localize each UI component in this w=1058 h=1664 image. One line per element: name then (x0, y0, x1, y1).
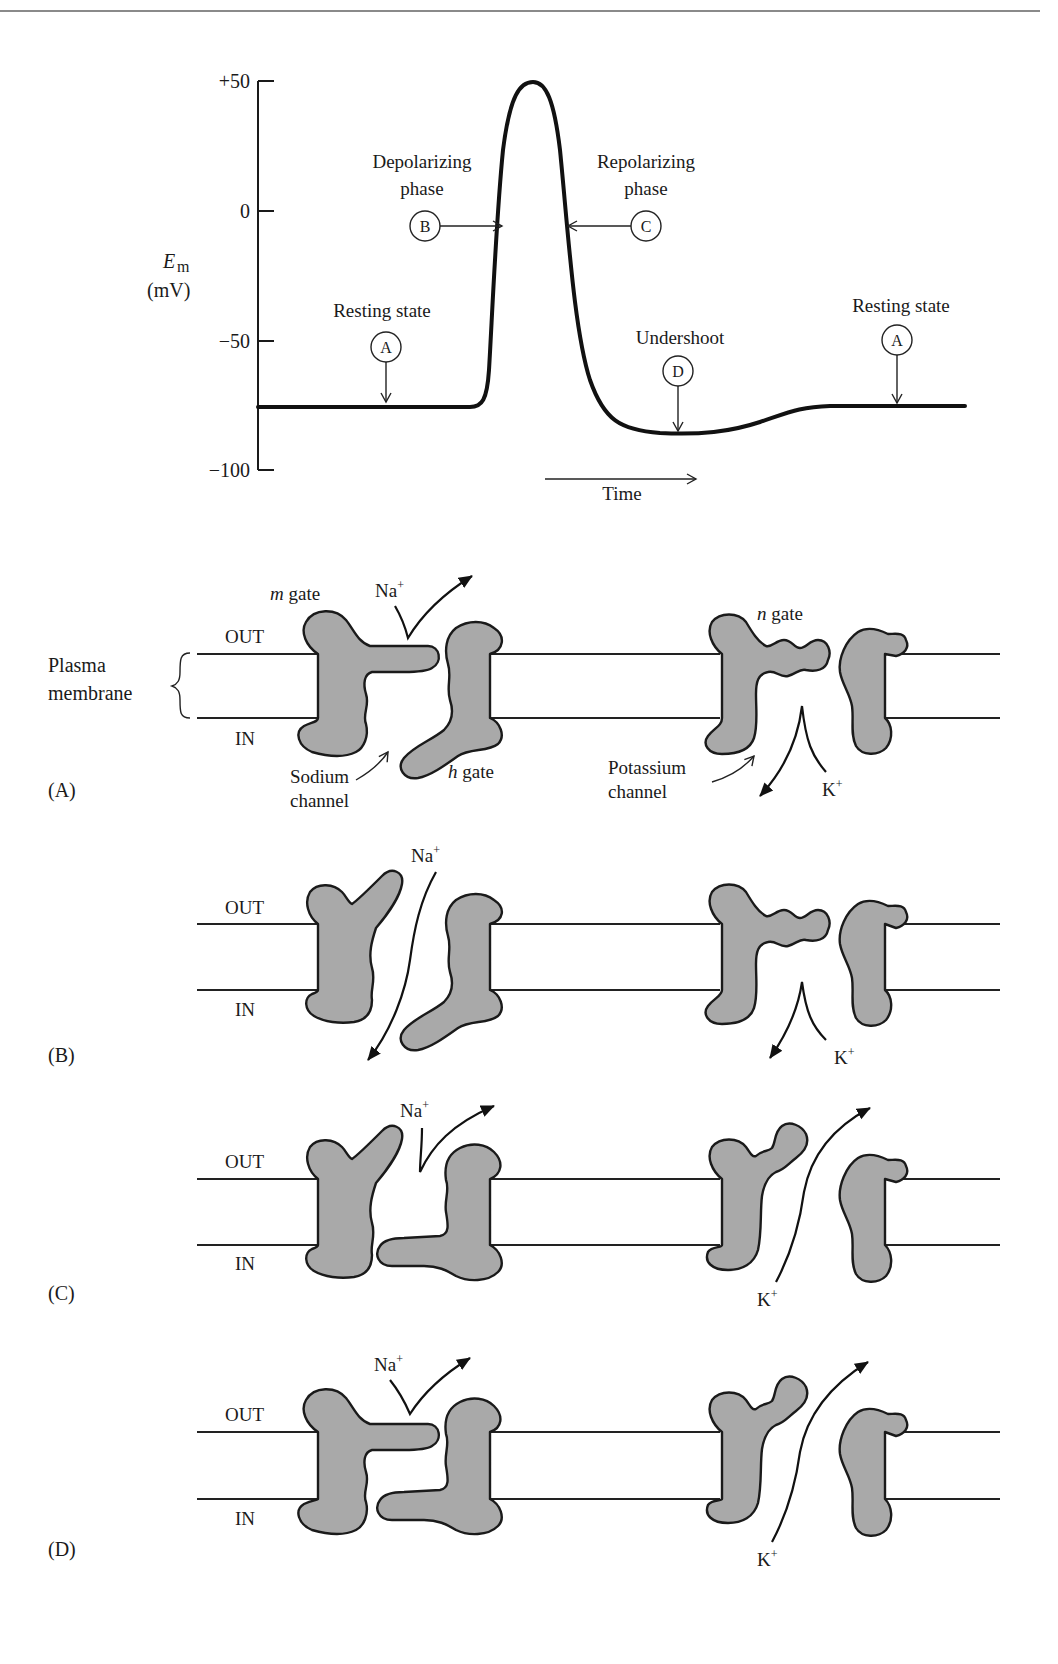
label-in: IN (235, 999, 255, 1020)
sodium-channel-pointer (356, 752, 388, 780)
panel-c: OUT IN Na+ K+ (C) (48, 1098, 1000, 1310)
action-potential-figure: +50 0 −50 −100 E m (mV) Resting state A … (0, 0, 1058, 1664)
k-arrow-b (770, 982, 826, 1058)
label-in: IN (235, 728, 255, 749)
label-plasma: Plasma (48, 654, 106, 676)
sodium-channel-right-subunit (401, 894, 502, 1050)
label-na-a: Na+ (375, 578, 404, 601)
y-axis-unit: (mV) (147, 279, 190, 302)
sodium-channel-right-subunit (377, 1145, 501, 1281)
label-in: IN (235, 1253, 255, 1274)
marker-c: C (641, 218, 652, 235)
panel-label-b: (B) (48, 1044, 75, 1067)
potassium-channel-left-subunit (706, 615, 830, 755)
y-axis-label-em: E (162, 250, 175, 272)
label-sodium: Sodium (290, 766, 349, 787)
sodium-channel-left-subunit (306, 871, 402, 1023)
label-membrane: membrane (48, 682, 133, 704)
label-k-b: K+ (834, 1045, 855, 1068)
panel-label-c: (C) (48, 1282, 75, 1305)
potassium-channel-left-subunit (706, 885, 830, 1025)
label-m-gate: m gate (270, 583, 320, 604)
label-out: OUT (225, 626, 264, 647)
label-na-c: Na+ (400, 1098, 429, 1121)
label-potassium-channel: channel (608, 781, 667, 802)
marker-d: D (672, 363, 684, 380)
membrane-potential-graph: +50 0 −50 −100 E m (mV) Resting state A … (147, 70, 965, 504)
tick-label-0: 0 (240, 200, 250, 222)
sodium-channel-right-subunit (377, 1399, 501, 1535)
action-potential-curve (258, 82, 965, 434)
label-k-d: K+ (757, 1547, 778, 1570)
label-h-gate: h gate (448, 761, 494, 782)
label-k-c: K+ (757, 1287, 778, 1310)
label-out: OUT (225, 1151, 264, 1172)
label-na-d: Na+ (374, 1352, 403, 1375)
marker-b: B (420, 218, 431, 235)
label-out: OUT (225, 897, 264, 918)
sodium-channel-left-subunit (298, 611, 438, 756)
potassium-channel-right-subunit (840, 901, 908, 1026)
tick-label-plus50: +50 (219, 70, 250, 92)
annotation-resting-left: Resting state (333, 300, 431, 321)
membrane-brace (172, 653, 190, 718)
potassium-channel-pointer (712, 756, 754, 782)
label-potassium: Potassium (608, 757, 686, 778)
annotation-repolarizing-line1: Repolarizing (597, 151, 696, 172)
tick-label-minus50: −50 (219, 330, 250, 352)
annotation-undershoot: Undershoot (636, 327, 725, 348)
label-sodium-channel: channel (290, 790, 349, 811)
panel-label-d: (D) (48, 1538, 76, 1561)
label-k-a: K+ (822, 777, 843, 800)
k-arrow-a (760, 706, 826, 796)
y-axis-label-subscript: m (177, 258, 190, 275)
marker-a-left: A (380, 339, 392, 356)
x-axis-label-time: Time (602, 483, 641, 504)
potassium-channel-left-subunit (707, 1377, 807, 1523)
potassium-channel-left-subunit (707, 1124, 807, 1270)
panel-b: OUT IN Na+ K+ (B) (48, 843, 1000, 1068)
tick-label-minus100: −100 (209, 459, 250, 481)
panel-label-a: (A) (48, 779, 76, 802)
potassium-channel-right-subunit (840, 1155, 908, 1282)
label-out: OUT (225, 1404, 264, 1425)
annotation-depolarizing-line2: phase (400, 178, 443, 199)
label-n-gate: n gate (757, 603, 803, 624)
panel-d: OUT IN Na+ K+ (D) (48, 1352, 1000, 1570)
panel-a: OUT IN Plasma membrane m gate Na+ Sodium… (48, 576, 1000, 811)
potassium-channel-right-subunit (840, 629, 908, 754)
label-in: IN (235, 1508, 255, 1529)
potassium-channel-right-subunit (840, 1409, 908, 1536)
annotation-repolarizing-line2: phase (624, 178, 667, 199)
annotation-depolarizing-line1: Depolarizing (372, 151, 472, 172)
annotation-resting-right: Resting state (852, 295, 950, 316)
label-na-b: Na+ (411, 843, 440, 866)
marker-a-right: A (891, 332, 903, 349)
